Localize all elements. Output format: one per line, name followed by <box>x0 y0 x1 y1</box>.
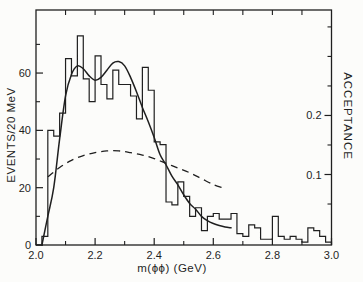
acceptance-tick-label: 0.1 <box>306 169 321 181</box>
x-tick-label: 2.6 <box>206 249 221 261</box>
y-tick-label: 20 <box>19 182 31 194</box>
x-tick-label: 3.0 <box>324 249 339 261</box>
fit-curve <box>42 61 231 245</box>
x-axis-label: m(ϕϕ) (GeV) <box>137 262 207 274</box>
acceptance-curve <box>48 151 222 188</box>
plot-svg: 2.02.22.42.62.83.002040600.10.2 <box>0 0 363 282</box>
plot-frame <box>36 10 332 245</box>
physics-histogram-figure: 2.02.22.42.62.83.002040600.10.2 EVENTS/2… <box>0 0 363 282</box>
x-tick-label: 2.4 <box>147 249 162 261</box>
acceptance-tick-label: 0.2 <box>306 109 321 121</box>
y-axis-label-right: ACCEPTANCE <box>342 72 354 160</box>
y-tick-label: 40 <box>19 124 31 136</box>
y-axis-label-left: EVENTS/20 MeV <box>5 87 17 182</box>
y-tick-label: 0 <box>25 239 31 251</box>
y-tick-label: 60 <box>19 67 31 79</box>
x-tick-label: 2.8 <box>265 249 280 261</box>
x-tick-label: 2.2 <box>87 249 102 261</box>
